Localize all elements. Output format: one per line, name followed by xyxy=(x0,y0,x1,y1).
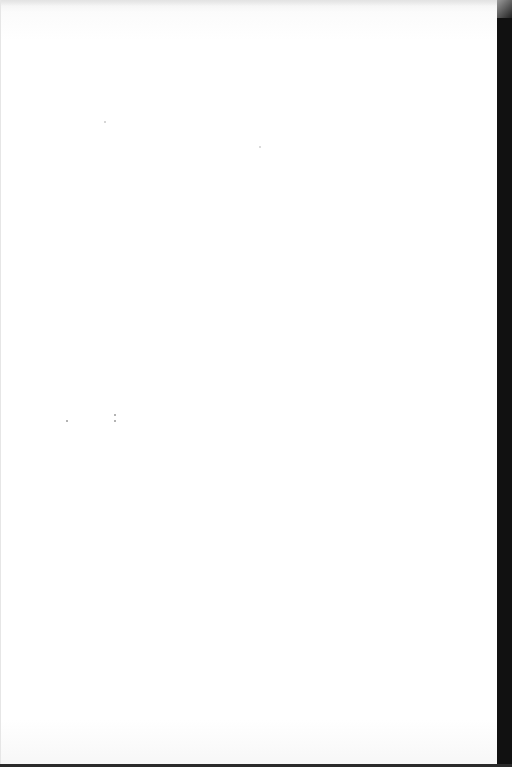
page-top-shadow xyxy=(1,0,498,6)
dust-speck xyxy=(114,420,116,422)
dust-speck xyxy=(259,146,261,148)
page-corner xyxy=(497,0,512,18)
dust-speck xyxy=(66,420,68,422)
dust-speck xyxy=(104,121,106,123)
dust-speck xyxy=(114,414,116,416)
scanner-right-edge xyxy=(497,0,512,767)
blank-scanned-page xyxy=(0,0,498,764)
